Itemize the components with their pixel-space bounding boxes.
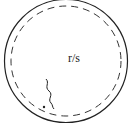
center-label: r/s xyxy=(68,51,80,65)
dot xyxy=(43,106,45,108)
wavy-line xyxy=(46,79,54,109)
inner-dashed-circle xyxy=(11,6,121,116)
circle-diagram: r/s xyxy=(0,0,133,134)
outer-circle xyxy=(5,0,128,123)
